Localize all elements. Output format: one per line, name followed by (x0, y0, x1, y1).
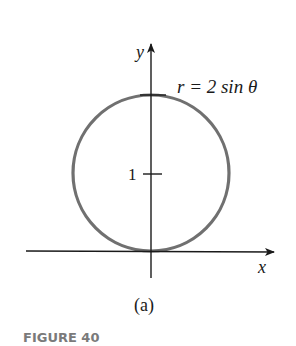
x-axis (26, 251, 274, 252)
curve-label: r = 2 sin θ (177, 76, 257, 97)
subcaption: (a) (134, 295, 154, 316)
polar-graph: 1 y x r = 2 sin θ (a) FIGURE 40 (0, 0, 296, 346)
figure-caption: FIGURE 40 (23, 330, 99, 345)
y-axis-label: y (134, 42, 144, 62)
x-axis-label: x (257, 257, 266, 277)
y-tick-label: 1 (128, 165, 137, 184)
